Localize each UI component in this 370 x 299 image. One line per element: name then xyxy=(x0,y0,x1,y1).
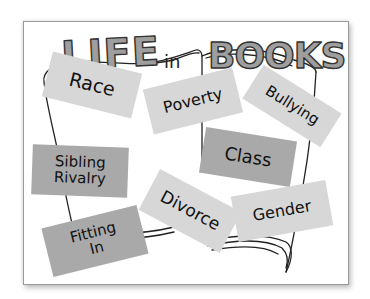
note-label: Poverty xyxy=(162,86,225,117)
poster-frame: LIFE in BOOKS Race Poverty Bullying Sibl… xyxy=(23,21,349,285)
title-in: in xyxy=(164,51,180,72)
note-label: Race xyxy=(67,70,117,101)
note-label-line2: Rivalry xyxy=(54,170,106,188)
note-label: Class xyxy=(223,144,273,170)
note-label: Gender xyxy=(252,198,313,225)
note-sibling-rivalry: Sibling Rivalry xyxy=(31,144,129,197)
